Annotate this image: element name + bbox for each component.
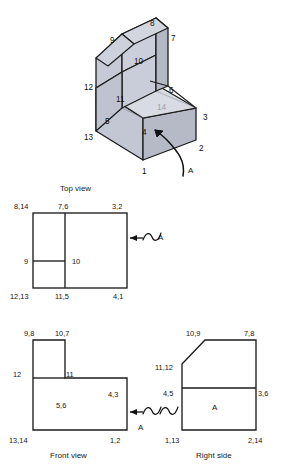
- top-view-section-label-a: A: [158, 234, 163, 242]
- iso-vertex-label-8: 8: [150, 20, 155, 28]
- iso-vertex-label-9: 9: [110, 37, 115, 45]
- front-view-vertex-label-2: 12: [13, 371, 21, 378]
- right-side-view-vertex-label-4: 3,6: [258, 390, 268, 397]
- iso-vertex-label-11: 11: [116, 96, 125, 104]
- front-view-vertex-label-1: 10,7: [55, 330, 69, 337]
- front-view-vertex-label-0: 9,8: [24, 330, 34, 337]
- top-view-caption: Top view: [60, 185, 91, 193]
- right-side-view-caption: Right side: [196, 452, 232, 460]
- front-view-vertex-label-3: 11: [66, 371, 74, 378]
- right-side-view-face-label-a: A: [212, 404, 217, 412]
- engineering-drawing-sheet: [0, 0, 286, 473]
- iso-section-label-a: A: [188, 167, 193, 175]
- front-view-vertex-label-5: 5,6: [56, 402, 66, 409]
- right-side-view-vertex-label-6: 2,14: [248, 437, 262, 444]
- iso-vertex-label-10: 10: [134, 58, 143, 66]
- top-view-vertex-label-3: 9: [24, 258, 28, 265]
- iso-vertex-label-6: 6: [169, 87, 174, 95]
- front-view-vertex-label-4: 4,3: [108, 391, 118, 398]
- right-side-view-vertex-label-0: 10,9: [186, 330, 200, 337]
- iso-vertex-label-1: 1: [142, 168, 147, 176]
- top-view-vertex-label-6: 11,5: [55, 293, 69, 300]
- front-view-vertex-label-7: 1,2: [110, 437, 120, 444]
- iso-vertex-label-14: 14: [157, 104, 166, 112]
- iso-vertex-label-5: 5: [105, 118, 110, 126]
- right-side-view-vertex-label-2: 11,12: [155, 364, 173, 371]
- iso-vertex-label-13: 13: [84, 134, 93, 142]
- iso-vertex-label-3: 3: [203, 114, 208, 122]
- right-side-view-vertex-label-1: 7,8: [244, 330, 254, 337]
- iso-vertex-label-12: 12: [84, 84, 93, 92]
- front-view-caption: Front view: [50, 452, 87, 460]
- top-view-vertex-label-5: 12,13: [10, 293, 29, 300]
- iso-vertex-label-7: 7: [171, 35, 176, 43]
- top-view-vertex-label-1: 7,6: [58, 203, 68, 210]
- front-view-vertex-label-6: 13,14: [9, 437, 28, 444]
- right-side-view-vertex-label-5: 1,13: [165, 437, 179, 444]
- right-side-view-vertex-label-3: 4,5: [163, 390, 173, 397]
- top-view-vertex-label-0: 8,14: [14, 203, 28, 210]
- iso-vertex-label-4: 4: [142, 129, 147, 137]
- front-view-section-label-a: A: [138, 424, 143, 432]
- top-view-vertex-label-2: 3,2: [112, 203, 122, 210]
- top-view-vertex-label-4: 10: [72, 258, 80, 265]
- top-view-vertex-label-7: 4,1: [113, 293, 123, 300]
- iso-vertex-label-2: 2: [199, 145, 204, 153]
